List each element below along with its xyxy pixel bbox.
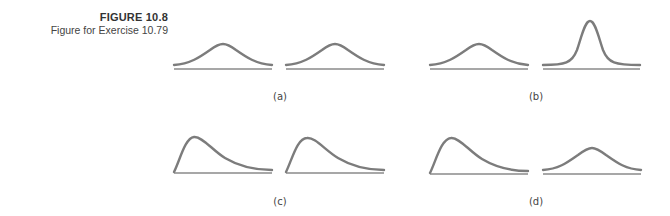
normal-curve — [286, 44, 384, 65]
panel-b-left-distribution — [430, 44, 528, 69]
figure-panels: (a) (b) (c) (d — [0, 0, 670, 216]
panel-label-c: (c) — [273, 196, 286, 207]
panel-c-left-distribution — [174, 137, 272, 173]
normal-curve — [543, 148, 641, 170]
normal-curve — [430, 44, 528, 65]
panel-label-a: (a) — [273, 91, 287, 102]
panel-a-right-distribution — [286, 44, 384, 69]
panel-c-right-distribution — [286, 138, 384, 173]
panel-b-right-distribution — [543, 21, 640, 69]
right-skewed-curve — [286, 138, 384, 172]
panel-d-right-distribution — [543, 148, 641, 174]
panel-c: (c) — [174, 137, 384, 207]
narrow-normal-curve — [543, 21, 640, 65]
panel-a: (a) — [174, 44, 384, 102]
panel-label-d: (d) — [529, 196, 543, 207]
normal-curve — [174, 44, 272, 65]
panel-d: (d) — [430, 138, 641, 207]
panel-label-b: (b) — [529, 91, 543, 102]
panel-b: (b) — [430, 21, 640, 102]
panel-d-left-distribution — [430, 138, 528, 174]
right-skewed-curve — [430, 138, 528, 173]
panel-a-left-distribution — [174, 44, 272, 69]
right-skewed-curve — [174, 137, 272, 172]
